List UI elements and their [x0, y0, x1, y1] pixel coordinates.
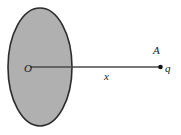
distance-label: x: [104, 71, 109, 82]
physics-figure: O x A q: [0, 0, 181, 135]
point-charge-dot: [158, 65, 163, 70]
charge-q-label: q: [165, 63, 171, 74]
disk-center-label: O: [24, 63, 32, 74]
point-a-label: A: [153, 45, 160, 56]
